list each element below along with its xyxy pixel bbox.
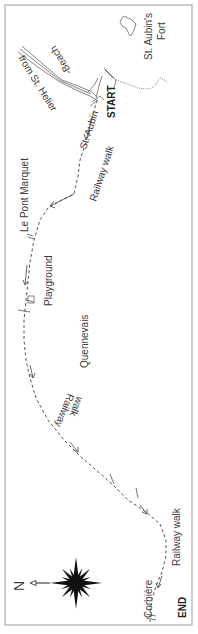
label-le-pont-marquet: Le Pont Marquet	[19, 158, 30, 232]
label-start: START	[106, 85, 117, 118]
label-fort-line2: Fort	[156, 22, 167, 40]
route-map: from St. Helier -Beach St. Aubin's Fort …	[0, 0, 198, 634]
label-end: END	[177, 597, 188, 618]
compass-north-label: N	[11, 581, 27, 591]
label-fort-line1: St. Aubin's	[143, 13, 154, 60]
label-playground: Playground	[43, 255, 54, 306]
map-border	[5, 5, 192, 625]
label-quennevais: Quennevais	[79, 315, 90, 368]
label-railway-walk-bottom: Railway walk	[171, 507, 182, 566]
label-corbiere: Corbière	[143, 579, 154, 618]
